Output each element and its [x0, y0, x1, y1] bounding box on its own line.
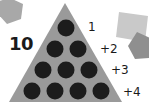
triangular-number-diagram: 10 1 +2 +3 +4 — [0, 0, 149, 110]
dot — [24, 83, 41, 100]
row-label-3: +3 — [111, 64, 129, 76]
dots-row-1 — [58, 20, 75, 37]
dot — [47, 41, 64, 58]
dot — [93, 83, 110, 100]
dot — [70, 83, 87, 100]
row-label-1: 1 — [88, 21, 96, 33]
dot — [70, 41, 87, 58]
dot — [58, 20, 75, 37]
dot — [35, 62, 52, 79]
row-label-4: +4 — [123, 86, 141, 98]
total-label: 10 — [9, 35, 33, 53]
pentagon-top-left-icon — [0, 0, 23, 24]
dot — [81, 62, 98, 79]
dots-row-3 — [35, 62, 98, 79]
dot — [58, 62, 75, 79]
dot — [47, 83, 64, 100]
row-label-2: +2 — [100, 43, 118, 55]
